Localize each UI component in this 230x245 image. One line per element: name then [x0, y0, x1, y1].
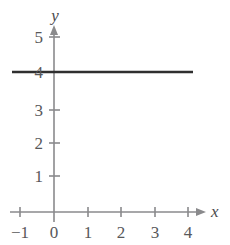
x-axis-label: x — [211, 203, 219, 220]
x-tick-label-4: 4 — [184, 224, 193, 241]
y-axis-arrowhead — [50, 25, 58, 35]
y-tick-label-2: 2 — [35, 135, 44, 152]
y-tick-label-3: 3 — [35, 102, 44, 119]
x-tick-label-2: 2 — [117, 224, 126, 241]
x-tick-label--1: −1 — [11, 224, 29, 241]
x-tick-label-3: 3 — [151, 224, 160, 241]
y-tick-label-5: 5 — [35, 29, 44, 46]
y-tick-label-1: 1 — [35, 168, 44, 185]
x-axis-arrowhead — [196, 208, 206, 216]
y-tick-label-4: 4 — [35, 64, 44, 81]
x-tick-label-0: 0 — [50, 224, 59, 241]
x-tick-label-1: 1 — [84, 224, 93, 241]
coordinate-plane-figure: 5 4 3 2 1 −1 0 1 2 3 4 y x — [0, 0, 230, 245]
y-axis-label: y — [51, 7, 59, 24]
